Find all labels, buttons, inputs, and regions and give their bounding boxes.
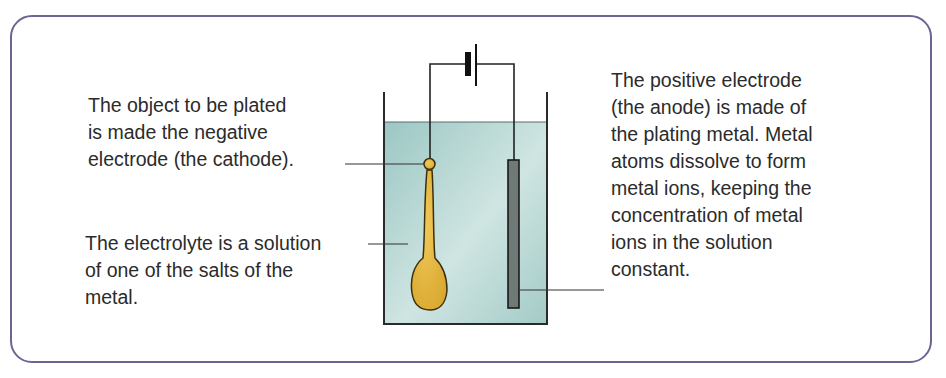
electrolyte-solution	[385, 122, 546, 324]
cathode-label: The object to be plated is made the nega…	[88, 92, 294, 173]
battery-cell-icon	[465, 44, 476, 86]
anode-label: The positive electrode (the anode) is ma…	[611, 67, 813, 283]
anode-plate	[508, 160, 519, 308]
electrolyte-label: The electrolyte is a solution of one of …	[85, 230, 321, 311]
